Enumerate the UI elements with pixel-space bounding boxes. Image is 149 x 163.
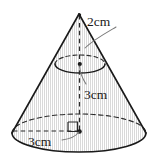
label-middle-3cm: 3cm <box>84 87 108 102</box>
cone-diagram-svg: 2cm 3cm 3cm <box>0 0 149 163</box>
mid-center-dot <box>78 62 82 66</box>
label-bottom-3cm: 3cm <box>28 134 52 149</box>
label-top-2cm: 2cm <box>87 14 111 29</box>
apex-dot <box>78 13 81 16</box>
cone-figure: 2cm 3cm 3cm <box>0 0 149 163</box>
